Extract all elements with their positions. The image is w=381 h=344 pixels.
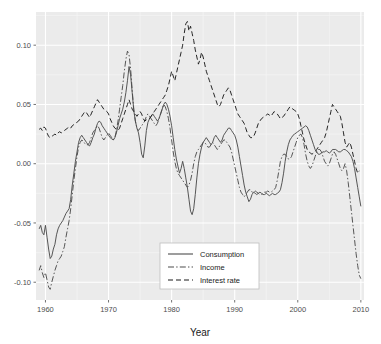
x-tick-label: 1970 (100, 305, 117, 314)
x-tick-label: 1980 (163, 305, 180, 314)
x-tick-label: 1990 (226, 305, 243, 314)
y-tick-label: -0.10 (14, 278, 31, 287)
x-tick-label: 1960 (37, 305, 54, 314)
line-chart: 196019701980199020002010 -0.10-0.050.000… (0, 0, 381, 344)
y-tick-label: 0.10 (16, 41, 31, 50)
x-tick-label: 2000 (289, 305, 306, 314)
legend-label-consumption: Consumption (200, 250, 244, 259)
legend-label-interest-rate: Interest rate (200, 276, 240, 285)
x-tick-label: 2010 (353, 305, 370, 314)
y-tick-label: 0.05 (16, 100, 31, 109)
chart-legend: ConsumptionIncomeInterest rate (160, 243, 259, 289)
legend-label-income: Income (200, 263, 225, 272)
chart-container: 196019701980199020002010 -0.10-0.050.000… (0, 0, 381, 344)
x-axis-title: Year (190, 327, 211, 338)
y-tick-label: -0.05 (14, 219, 31, 228)
y-tick-label: 0.00 (16, 159, 31, 168)
